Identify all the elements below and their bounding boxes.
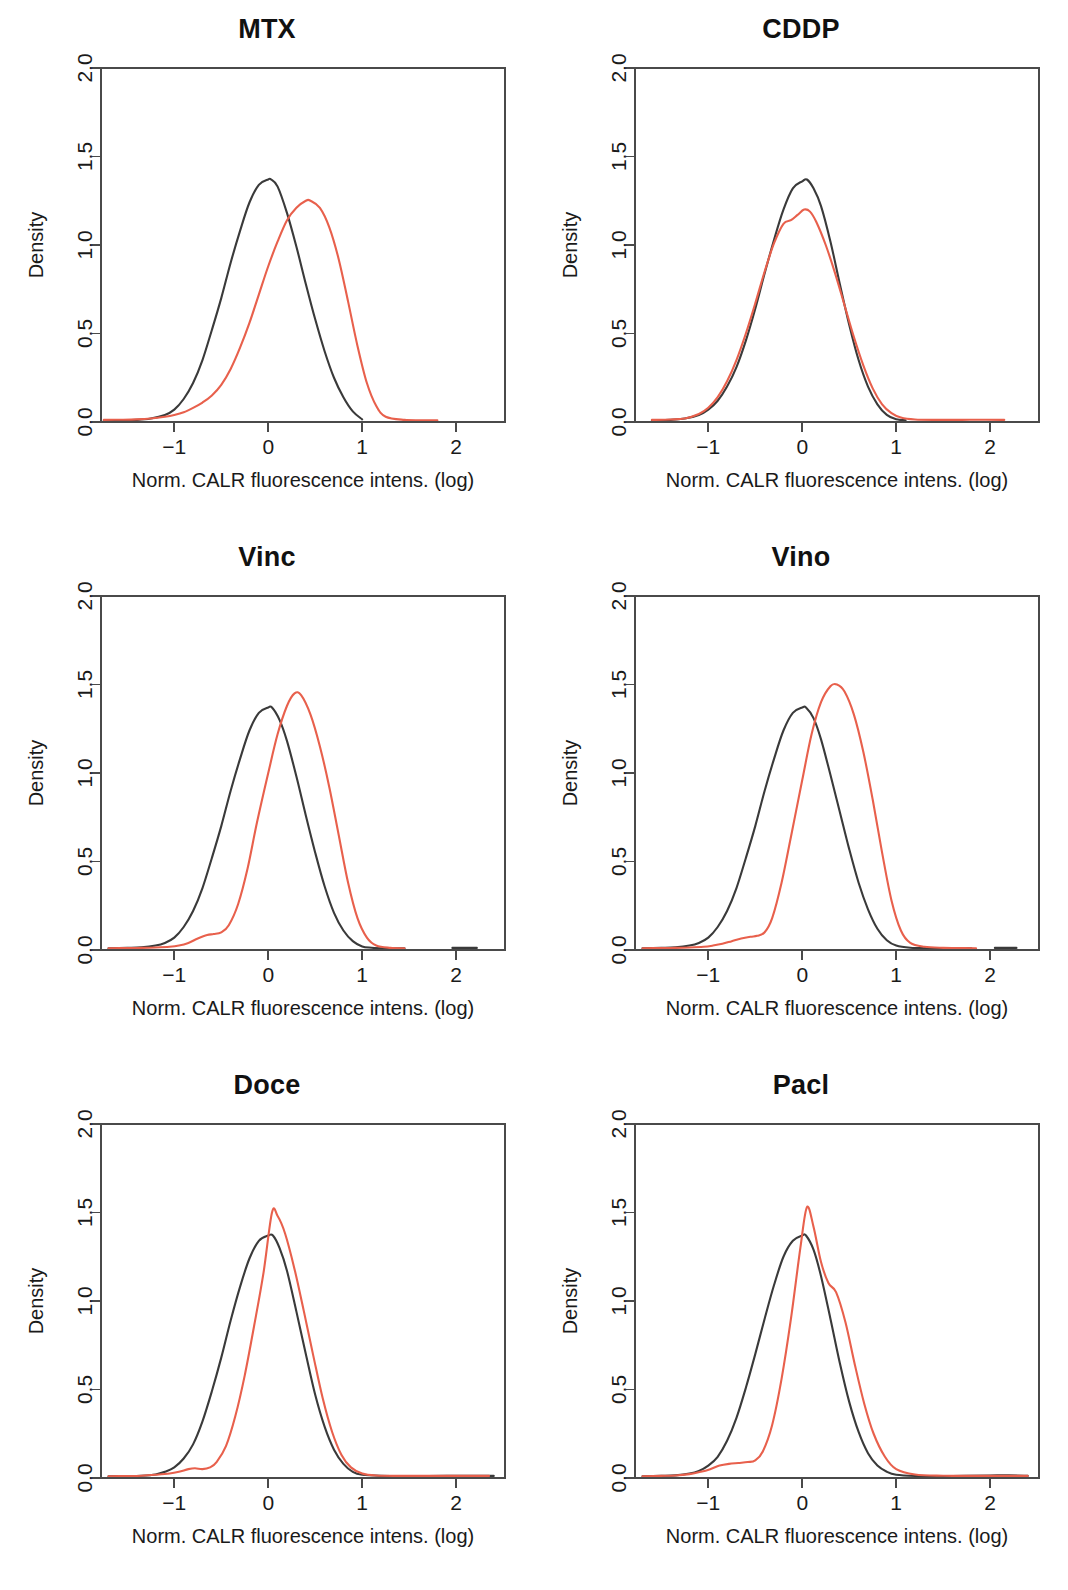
- y-axis-tick-label: 0.0: [73, 1463, 96, 1492]
- plot-frame: [635, 596, 1039, 950]
- x-axis: −1012Norm. CALR fluorescence intens. (lo…: [132, 950, 474, 1019]
- y-axis-tick-label: 0.5: [73, 319, 96, 348]
- y-axis-tick-label: 2.0: [73, 53, 96, 82]
- density-curves: [104, 179, 438, 421]
- x-axis-tick-label: −1: [162, 435, 186, 458]
- x-axis-tick-label: −1: [696, 1491, 720, 1514]
- y-axis-tick-label: 1.5: [73, 1198, 96, 1227]
- y-axis-title: Density: [25, 212, 47, 279]
- x-axis-tick-label: 0: [796, 1491, 808, 1514]
- y-axis-tick-label: 0.0: [73, 407, 96, 436]
- x-axis-tick-label: 2: [984, 435, 996, 458]
- density-curve-treated: [109, 1208, 490, 1476]
- density-curves: [643, 1207, 1028, 1477]
- density-curves: [643, 684, 1017, 948]
- x-axis-tick-label: 0: [796, 963, 808, 986]
- y-axis: 0.00.51.01.52.0Density: [559, 53, 635, 436]
- density-curves: [652, 179, 1004, 420]
- x-axis-title: Norm. CALR fluorescence intens. (log): [132, 1525, 474, 1547]
- y-axis: 0.00.51.01.52.0Density: [559, 1109, 635, 1492]
- density-plot-panel: MTX0.00.51.01.52.0Density−1012Norm. CALR…: [0, 0, 534, 528]
- density-curve-control: [652, 179, 906, 420]
- x-axis-tick-label: 2: [450, 1491, 462, 1514]
- density-curve-treated: [652, 209, 1004, 420]
- y-axis-tick-label: 1.0: [607, 1286, 630, 1315]
- x-axis-tick-label: 0: [262, 435, 274, 458]
- density-plot-panel: Vinc0.00.51.01.52.0Density−1012Norm. CAL…: [0, 528, 534, 1056]
- y-axis-tick-label: 2.0: [73, 581, 96, 610]
- density-curve-treated: [109, 692, 405, 948]
- density-curves: [109, 1208, 494, 1476]
- y-axis: 0.00.51.01.52.0Density: [25, 581, 101, 964]
- y-axis: 0.00.51.01.52.0Density: [25, 53, 101, 436]
- x-axis-tick-label: 2: [450, 963, 462, 986]
- x-axis: −1012Norm. CALR fluorescence intens. (lo…: [132, 1478, 474, 1547]
- density-curve-control: [109, 1234, 494, 1476]
- y-axis: 0.00.51.01.52.0Density: [25, 1109, 101, 1492]
- x-axis: −1012Norm. CALR fluorescence intens. (lo…: [666, 950, 1008, 1019]
- x-axis-tick-label: 2: [984, 1491, 996, 1514]
- x-axis-tick-label: −1: [162, 1491, 186, 1514]
- density-curve-control: [643, 1234, 1028, 1476]
- x-axis-tick-label: 0: [796, 435, 808, 458]
- y-axis-tick-label: 0.5: [607, 1375, 630, 1404]
- x-axis-tick-label: 0: [262, 1491, 274, 1514]
- figure-panel-grid: MTX0.00.51.01.52.0Density−1012Norm. CALR…: [0, 0, 1068, 1590]
- x-axis-tick-label: 0: [262, 963, 274, 986]
- plot-frame: [101, 68, 505, 422]
- x-axis-tick-label: 1: [890, 1491, 902, 1514]
- x-axis-title: Norm. CALR fluorescence intens. (log): [666, 469, 1008, 491]
- y-axis-tick-label: 0.5: [73, 1375, 96, 1404]
- density-plot-panel: Vino0.00.51.01.52.0Density−1012Norm. CAL…: [534, 528, 1068, 1056]
- y-axis-tick-label: 0.5: [607, 319, 630, 348]
- y-axis-tick-label: 1.0: [73, 230, 96, 259]
- x-axis-tick-label: 1: [356, 1491, 368, 1514]
- x-axis-tick-label: 2: [450, 435, 462, 458]
- y-axis-tick-label: 0.0: [607, 935, 630, 964]
- x-axis-tick-label: 1: [890, 963, 902, 986]
- y-axis-tick-label: 1.0: [73, 1286, 96, 1315]
- x-axis-title: Norm. CALR fluorescence intens. (log): [132, 469, 474, 491]
- x-axis-tick-label: −1: [162, 963, 186, 986]
- y-axis-tick-label: 1.0: [607, 230, 630, 259]
- y-axis-tick-label: 2.0: [73, 1109, 96, 1138]
- y-axis-tick-label: 0.0: [73, 935, 96, 964]
- x-axis: −1012Norm. CALR fluorescence intens. (lo…: [666, 1478, 1008, 1547]
- x-axis-tick-label: −1: [696, 435, 720, 458]
- density-plot-panel: Doce0.00.51.01.52.0Density−1012Norm. CAL…: [0, 1056, 534, 1590]
- y-axis-tick-label: 0.5: [73, 847, 96, 876]
- density-curve-control: [643, 706, 972, 948]
- plot-frame: [101, 596, 505, 950]
- x-axis-tick-label: −1: [696, 963, 720, 986]
- y-axis-tick-label: 1.0: [607, 758, 630, 787]
- plot-frame: [101, 1124, 505, 1478]
- y-axis-tick-label: 0.5: [607, 847, 630, 876]
- y-axis-title: Density: [25, 1268, 47, 1335]
- y-axis-tick-label: 0.0: [607, 407, 630, 436]
- y-axis-title: Density: [559, 1268, 581, 1335]
- x-axis-tick-label: 1: [356, 435, 368, 458]
- y-axis-tick-label: 2.0: [607, 1109, 630, 1138]
- y-axis-tick-label: 2.0: [607, 581, 630, 610]
- y-axis-title: Density: [559, 212, 581, 279]
- y-axis-tick-label: 1.5: [607, 142, 630, 171]
- y-axis-tick-label: 1.0: [73, 758, 96, 787]
- plot-frame: [635, 1124, 1039, 1478]
- x-axis-tick-label: 1: [890, 435, 902, 458]
- y-axis-tick-label: 1.5: [607, 1198, 630, 1227]
- x-axis-tick-label: 2: [984, 963, 996, 986]
- density-curve-treated: [104, 200, 438, 420]
- x-axis-title: Norm. CALR fluorescence intens. (log): [666, 997, 1008, 1019]
- y-axis-title: Density: [559, 740, 581, 807]
- x-axis: −1012Norm. CALR fluorescence intens. (lo…: [666, 422, 1008, 491]
- density-curves: [109, 692, 477, 948]
- density-plot-panel: CDDP0.00.51.01.52.0Density−1012Norm. CAL…: [534, 0, 1068, 528]
- y-axis-tick-label: 2.0: [607, 53, 630, 82]
- x-axis-title: Norm. CALR fluorescence intens. (log): [132, 997, 474, 1019]
- x-axis: −1012Norm. CALR fluorescence intens. (lo…: [132, 422, 474, 491]
- density-plot-panel: Pacl0.00.51.01.52.0Density−1012Norm. CAL…: [534, 1056, 1068, 1590]
- x-axis-tick-label: 1: [356, 963, 368, 986]
- x-axis-title: Norm. CALR fluorescence intens. (log): [666, 1525, 1008, 1547]
- y-axis: 0.00.51.01.52.0Density: [559, 581, 635, 964]
- plot-frame: [635, 68, 1039, 422]
